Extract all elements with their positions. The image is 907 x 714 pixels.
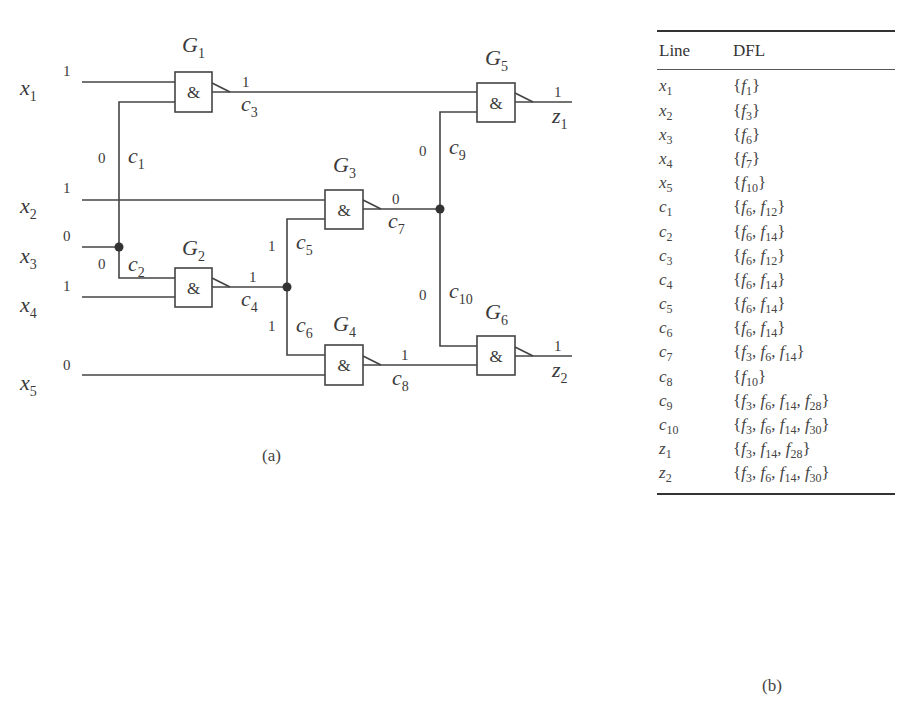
input-x5-value: 0	[63, 357, 71, 373]
gate-g4-symbol: &	[337, 356, 350, 375]
row-line-name: c1	[657, 197, 733, 220]
gate-g5-label: G5	[485, 45, 508, 74]
line-c9-value: 0	[419, 143, 427, 159]
gate-g4-label: G4	[333, 311, 356, 340]
row-line-name: x2	[657, 101, 733, 124]
table-row: x4{f7}	[657, 149, 895, 173]
line-c10-value: 0	[419, 287, 427, 303]
gate-g6-symbol: &	[489, 347, 502, 366]
output-z2-value: 1	[554, 338, 562, 354]
gate-g5-symbol: &	[489, 94, 502, 113]
line-c3-value: 1	[242, 74, 250, 90]
input-x1-value: 1	[63, 63, 71, 79]
row-dfl-set: {f3, f6, f14, f30}	[733, 415, 895, 438]
wire-c6	[287, 287, 325, 355]
line-c7-value: 0	[392, 191, 400, 207]
fanout-dot-x3	[115, 243, 124, 252]
row-dfl-set: {f3}	[733, 101, 895, 124]
table-row: c2{f6, f14}	[657, 221, 895, 245]
row-line-name: c7	[657, 342, 733, 365]
table-row: x2{f3}	[657, 100, 895, 124]
header-dfl: DFL	[733, 41, 895, 61]
gate-g3-symbol: &	[337, 201, 350, 220]
row-dfl-set: {f6, f14}	[733, 270, 895, 293]
table-row: c6{f6, f14}	[657, 318, 895, 342]
line-c6-value: 1	[268, 318, 276, 334]
row-line-name: c3	[657, 246, 733, 269]
table-row: c9{f3, f6, f14, f28}	[657, 390, 895, 414]
wedge-g2	[212, 278, 230, 287]
table-row: c4{f6, f14}	[657, 270, 895, 294]
gate-g2-symbol: &	[187, 279, 200, 298]
fanout-dot-c7	[436, 205, 445, 214]
table-row: z1{f3, f14, f28}	[657, 439, 895, 463]
row-dfl-set: {f10}	[733, 367, 895, 390]
dfl-table: Line DFL x1{f1}x2{f3}x3{f6}x4{f7}x5{f10}…	[657, 30, 895, 495]
table-bottom-rule	[657, 493, 895, 495]
table-row: c1{f6, f12}	[657, 197, 895, 221]
row-dfl-set: {f1}	[733, 76, 895, 99]
row-line-name: c2	[657, 222, 733, 245]
row-dfl-set: {f10}	[733, 173, 895, 196]
row-line-name: c5	[657, 294, 733, 317]
line-c2-value: 0	[98, 256, 106, 272]
row-dfl-set: {f6, f14}	[733, 294, 895, 317]
row-dfl-set: {f7}	[733, 149, 895, 172]
wire-c1	[119, 102, 175, 247]
input-x1-label: x1	[19, 75, 37, 104]
line-c8-value: 1	[401, 347, 409, 363]
output-z1-value: 1	[554, 84, 562, 100]
wedge-g6	[515, 347, 533, 356]
row-dfl-set: {f6, f12}	[733, 197, 895, 220]
table-row: x1{f1}	[657, 76, 895, 100]
table-header: Line DFL	[657, 32, 895, 69]
table-row: x5{f10}	[657, 173, 895, 197]
line-c1-label: c1	[128, 143, 145, 172]
table-row: c5{f6, f14}	[657, 294, 895, 318]
table-row: c7{f3, f6, f14}	[657, 342, 895, 366]
row-line-name: x5	[657, 173, 733, 196]
row-dfl-set: {f6, f14}	[733, 318, 895, 341]
input-x2-value: 1	[63, 180, 71, 196]
input-x4-value: 1	[63, 278, 71, 294]
logic-circuit-diagram: & & & & & & G1 G2 G3 G4 G5 G6 x1 x2 x3 x…	[0, 0, 640, 470]
gate-g1-symbol: &	[187, 83, 200, 102]
line-c7-label: c7	[388, 208, 405, 237]
line-c5-label: c5	[296, 229, 313, 258]
gate-g2-label: G2	[182, 235, 205, 264]
row-dfl-set: {f3, f6, f14, f30}	[733, 463, 895, 486]
row-dfl-set: {f6, f12}	[733, 246, 895, 269]
table-body: x1{f1}x2{f3}x3{f6}x4{f7}x5{f10}c1{f6, f1…	[657, 70, 895, 493]
header-line: Line	[657, 41, 733, 61]
row-dfl-set: {f6, f14}	[733, 222, 895, 245]
row-line-name: c10	[657, 415, 733, 438]
input-x3-value: 0	[63, 228, 71, 244]
line-c4-value: 1	[249, 269, 257, 285]
table-row: z2{f3, f6, f14, f30}	[657, 463, 895, 487]
line-c1-value: 0	[98, 150, 106, 166]
line-c3-label: c3	[241, 91, 258, 120]
wedge-g4	[363, 356, 381, 365]
circuit-caption: (a)	[262, 446, 281, 466]
row-line-name: c4	[657, 270, 733, 293]
row-dfl-set: {f6}	[733, 125, 895, 148]
gate-g3-label: G3	[333, 152, 356, 181]
wedge-g5	[515, 93, 533, 102]
input-x4-label: x4	[19, 292, 37, 321]
row-line-name: x3	[657, 125, 733, 148]
gate-g1-label: G1	[182, 32, 205, 61]
row-dfl-set: {f3, f6, f14}	[733, 342, 895, 365]
row-line-name: c8	[657, 367, 733, 390]
line-c4-label: c4	[241, 286, 258, 315]
wedge-g3	[363, 200, 381, 209]
fanout-dot-c4	[283, 283, 292, 292]
table-row: c10{f3, f6, f14, f30}	[657, 415, 895, 439]
line-c2-label: c2	[128, 251, 145, 280]
input-x2-label: x2	[19, 193, 37, 222]
table-row: c8{f10}	[657, 366, 895, 390]
row-line-name: x4	[657, 149, 733, 172]
output-z1-label: z1	[551, 103, 568, 132]
row-line-name: z2	[657, 463, 733, 486]
table-row: c3{f6, f12}	[657, 245, 895, 269]
row-line-name: x1	[657, 76, 733, 99]
